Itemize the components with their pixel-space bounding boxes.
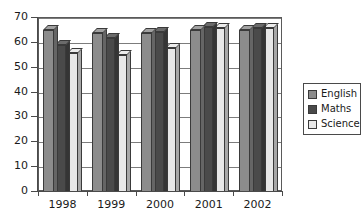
legend-item-english: English (308, 87, 357, 101)
y-tick-70 (31, 17, 37, 18)
gridline-70 (39, 18, 281, 19)
legend-swatch-icon-maths (308, 105, 317, 114)
y-tick-label-40: 40 (0, 86, 28, 97)
chart-legend: EnglishMathsScience (303, 83, 361, 135)
x-tick-1 (87, 191, 88, 196)
legend-label-science: Science (321, 119, 360, 129)
x-tick-5 (282, 191, 283, 196)
legend-item-maths: Maths (308, 102, 357, 116)
x-tick-3 (184, 191, 185, 196)
legend-label-english: English (321, 89, 357, 99)
y-axis-line (37, 17, 38, 192)
x-tick-0 (38, 191, 39, 196)
bar-english-1999 (92, 33, 103, 192)
y-tick-label-10: 10 (0, 160, 28, 171)
bar-english-2000 (141, 33, 152, 192)
x-axis-label-2001: 2001 (186, 199, 232, 210)
bar-english-2002 (239, 30, 250, 192)
x-tick-4 (233, 191, 234, 196)
y-tick-60 (31, 42, 37, 43)
y-tick-label-30: 30 (0, 110, 28, 121)
y-tick-label-60: 60 (0, 36, 28, 47)
legend-label-maths: Maths (321, 104, 351, 114)
y-tick-40 (31, 92, 37, 93)
bar-chart: 010203040506070 19981999200020012002 Eng… (0, 0, 364, 223)
legend-swatch-icon-science (308, 120, 317, 129)
x-axis-label-1998: 1998 (39, 199, 85, 210)
legend-item-science: Science (308, 117, 357, 131)
y-tick-50 (31, 67, 37, 68)
y-tick-label-50: 50 (0, 61, 28, 72)
x-axis-line (37, 191, 283, 192)
y-tick-10 (31, 166, 37, 167)
x-axis-label-2000: 2000 (137, 199, 183, 210)
y-tick-20 (31, 141, 37, 142)
y-tick-label-0: 0 (0, 185, 28, 196)
bar-english-2001 (190, 30, 201, 192)
x-axis-label-1999: 1999 (88, 199, 134, 210)
y-tick-label-70: 70 (0, 11, 28, 22)
x-tick-2 (136, 191, 137, 196)
legend-swatch-icon-english (308, 90, 317, 99)
bar-english-1998 (43, 30, 54, 192)
plot-area (38, 17, 282, 191)
x-axis-label-2002: 2002 (235, 199, 281, 210)
y-tick-30 (31, 116, 37, 117)
y-tick-label-20: 20 (0, 135, 28, 146)
